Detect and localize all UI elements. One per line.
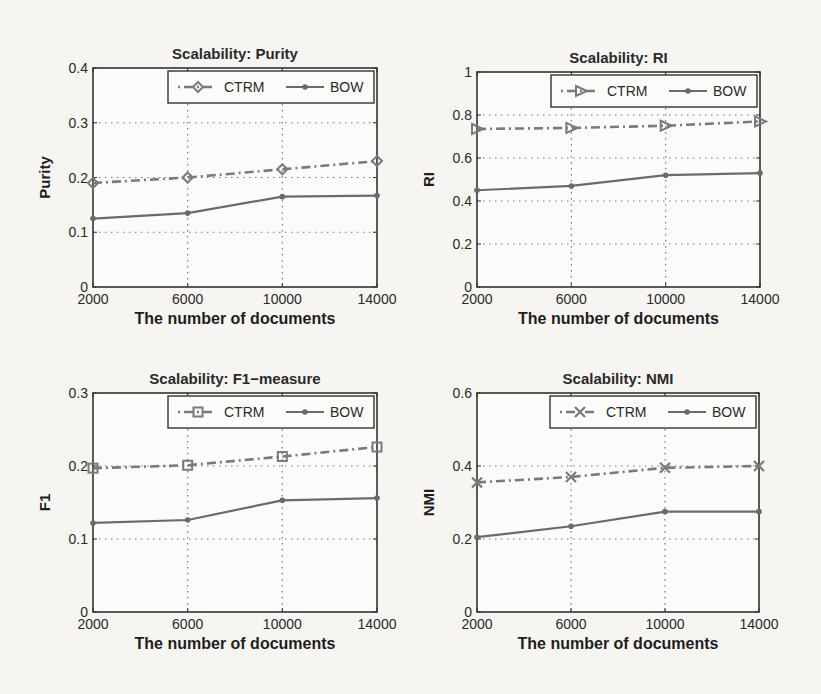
legend: CTRMBOW <box>168 396 374 428</box>
y-tick-label: 0.3 <box>69 385 89 401</box>
y-tick-label: 0.1 <box>69 224 89 240</box>
chart-title: Scalability: NMI <box>563 370 674 387</box>
x-tick-label: 10000 <box>263 616 302 632</box>
y-axis-label: NMI <box>420 489 437 517</box>
legend-label-ctrm: CTRM <box>224 79 264 95</box>
y-tick-label: 0.2 <box>453 236 473 252</box>
chart-title: Scalability: RI <box>569 49 667 66</box>
y-tick-label: 0.2 <box>69 170 89 186</box>
dot-marker-icon <box>756 509 762 515</box>
x-tick-label: 10000 <box>263 291 302 307</box>
y-tick-label: 0.4 <box>69 60 89 76</box>
x-tick-label: 2000 <box>77 616 108 632</box>
dot-marker-icon <box>185 210 191 216</box>
y-tick-label: 0.2 <box>453 531 473 547</box>
x-tick-label: 6000 <box>556 291 587 307</box>
x-axis-label: The number of documents <box>135 310 336 327</box>
legend: CTRMBOW <box>551 75 757 107</box>
x-tick-label: 10000 <box>646 616 685 632</box>
legend-label-bow: BOW <box>330 79 364 95</box>
x-tick-label: 14000 <box>741 291 780 307</box>
chart-canvas: 00.10.20.30.4200060001000014000CTRMBOWSc… <box>0 0 821 694</box>
x-tick-label: 6000 <box>172 291 203 307</box>
legend: CTRMBOW <box>550 396 756 428</box>
dot-marker-icon <box>474 187 480 193</box>
legend-label-bow: BOW <box>712 404 746 420</box>
x-axis-label: The number of documents <box>518 310 719 327</box>
legend-label-bow: BOW <box>330 404 364 420</box>
x-tick-label: 6000 <box>172 616 203 632</box>
y-tick-label: 1 <box>464 64 472 80</box>
dot-legend-icon <box>302 84 308 90</box>
y-axis-label: RI <box>420 172 437 187</box>
dot-marker-icon <box>280 194 286 200</box>
x-tick-label: 14000 <box>740 616 779 632</box>
y-tick-label: 0.4 <box>453 193 473 209</box>
legend-label-ctrm: CTRM <box>607 83 647 99</box>
legend-label-ctrm: CTRM <box>224 404 264 420</box>
chart-panel-nmi: 00.20.40.6200060001000014000CTRMBOWScala… <box>420 370 779 652</box>
x-tick-label: 6000 <box>555 616 586 632</box>
dot-marker-icon <box>757 170 763 176</box>
chart-title: Scalability: Purity <box>172 45 299 62</box>
dot-marker-icon <box>374 495 380 501</box>
y-tick-label: 0.8 <box>453 107 473 123</box>
x-axis-label: The number of documents <box>518 635 719 652</box>
dot-legend-icon <box>685 88 691 94</box>
chart-panel-f1: 00.10.20.3200060001000014000CTRMBOWScala… <box>36 370 397 652</box>
chart-panel-ri: 00.20.40.60.81200060001000014000CTRMBOWS… <box>420 49 780 327</box>
y-axis-label: Purity <box>36 156 53 199</box>
dot-marker-icon <box>569 183 575 189</box>
dot-marker-icon <box>90 520 96 526</box>
dot-marker-icon <box>90 216 96 222</box>
dot-marker-icon <box>474 534 480 540</box>
dot-marker-icon <box>185 517 191 523</box>
dot-legend-icon <box>684 409 690 415</box>
dot-marker-icon <box>280 498 286 504</box>
y-tick-label: 0.6 <box>453 385 473 401</box>
y-tick-label: 0.3 <box>69 115 89 131</box>
x-tick-label: 14000 <box>358 616 397 632</box>
dot-marker-icon <box>568 523 574 529</box>
legend-label-ctrm: CTRM <box>606 404 646 420</box>
chart-title: Scalability: F1−measure <box>149 370 320 387</box>
legend-label-bow: BOW <box>713 83 747 99</box>
dot-marker-icon <box>663 172 669 178</box>
y-axis-label: F1 <box>36 494 53 512</box>
legend: CTRMBOW <box>168 71 374 103</box>
x-axis-label: The number of documents <box>135 635 336 652</box>
y-tick-label: 0.1 <box>69 531 89 547</box>
x-tick-label: 2000 <box>461 616 492 632</box>
x-tick-label: 14000 <box>358 291 397 307</box>
y-tick-label: 0.2 <box>69 458 89 474</box>
x-tick-label: 2000 <box>461 291 492 307</box>
dot-marker-icon <box>662 509 668 515</box>
x-tick-label: 10000 <box>646 291 685 307</box>
chart-panel-purity: 00.10.20.30.4200060001000014000CTRMBOWSc… <box>36 45 397 327</box>
y-tick-label: 0.4 <box>453 458 473 474</box>
dot-legend-icon <box>302 409 308 415</box>
y-tick-label: 0.6 <box>453 150 473 166</box>
x-tick-label: 2000 <box>77 291 108 307</box>
dot-marker-icon <box>374 193 380 199</box>
